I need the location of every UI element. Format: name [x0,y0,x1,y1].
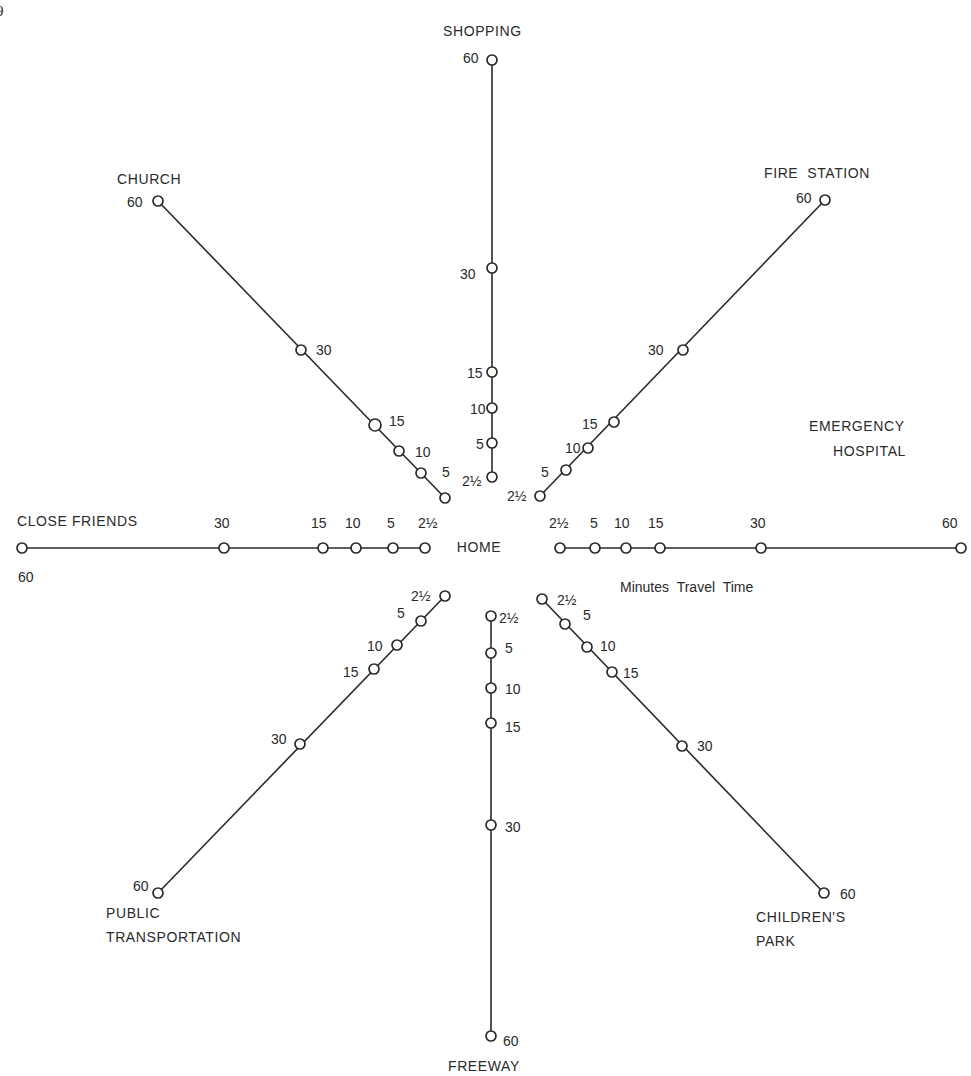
destination-label-emergency-hospital: EMERGENCY [809,418,905,434]
time-marker-label: 60 [18,569,34,585]
time-marker-node [394,446,404,456]
time-marker-label: 60 [840,886,856,902]
time-marker-label: 15 [582,416,598,432]
time-marker-node [369,664,379,674]
time-marker-node [487,263,497,273]
travel-time-diagram: 9 HOME Minutes Travel Time 2½510153060SH… [0,0,971,1076]
time-marker-label: 5 [442,464,450,480]
spoke-childrens-park: 2½510153060CHILDREN'SPARK [537,592,856,949]
time-marker-label: 2½ [507,488,527,504]
time-marker-node [819,888,829,898]
time-marker-label: 2½ [411,588,431,604]
time-marker-label: 2½ [549,515,569,531]
time-marker-node [820,195,830,205]
time-marker-label: 10 [600,638,616,654]
time-marker-label: 60 [942,515,958,531]
time-marker-node [153,196,163,206]
time-marker-label: 30 [505,819,521,835]
time-marker-node [440,591,450,601]
time-marker-label: 30 [460,266,476,282]
time-marker-label: 15 [389,413,405,429]
spoke-freeway: 2½510153060FREEWAY [448,610,521,1074]
destination-label-close-friends: CLOSE FRIENDS [17,513,138,529]
time-marker-node [351,543,361,553]
time-marker-label: 15 [467,365,483,381]
time-marker-node [956,543,966,553]
time-marker-node [486,611,496,621]
time-marker-node [486,1031,496,1041]
spoke-public-transportation: 2½510153060PUBLICTRANSPORTATION [106,588,450,945]
time-marker-label: 30 [697,738,713,754]
spoke-shopping: 2½510153060SHOPPING [443,23,522,489]
time-marker-label: 15 [343,664,359,680]
destination-label-childrens-park: CHILDREN'S [756,909,846,925]
time-marker-label: 10 [505,681,521,697]
diagram-svg: 9 HOME Minutes Travel Time 2½510153060SH… [0,0,971,1076]
destination-label-fire-station: FIRE STATION [764,165,870,181]
home-center-label: HOME [457,539,501,555]
time-marker-label: 15 [623,665,639,681]
time-marker-node [560,619,570,629]
time-marker-label: 5 [590,515,598,531]
time-marker-label: 15 [311,515,327,531]
time-marker-label: 30 [316,342,332,358]
time-marker-label: 15 [505,719,521,735]
time-marker-node [295,739,305,749]
time-marker-node [296,345,306,355]
spoke-church: 510153060CHURCH [117,171,450,503]
time-marker-label: 30 [271,731,287,747]
time-marker-label: 2½ [499,610,519,626]
destination-label-freeway: FREEWAY [448,1058,520,1074]
time-marker-node [756,543,766,553]
time-marker-label: 10 [565,440,581,456]
spoke-emergency-hospital: 2½510153060EMERGENCYHOSPITAL [549,418,966,553]
time-marker-label: 60 [133,878,149,894]
time-marker-label: 2½ [462,473,482,489]
time-marker-label: 5 [397,605,405,621]
time-marker-label: 10 [470,401,486,417]
time-marker-node [318,543,328,553]
time-marker-node [561,465,571,475]
time-marker-node [388,543,398,553]
time-marker-label: 60 [796,190,812,206]
time-marker-node [486,648,496,658]
time-marker-node [487,55,497,65]
time-marker-node [17,543,27,553]
time-marker-node [392,640,402,650]
time-marker-label: 2½ [557,592,577,608]
time-marker-label: 5 [476,436,484,452]
time-marker-label: 30 [648,342,664,358]
time-marker-node [487,367,497,377]
time-marker-label: 5 [541,464,549,480]
time-marker-node [487,472,497,482]
destination-label-public-transportation: TRANSPORTATION [106,929,241,945]
time-marker-node [607,667,617,677]
time-marker-node [535,491,545,501]
time-marker-node [655,543,665,553]
time-marker-node [486,820,496,830]
time-marker-node [590,543,600,553]
destination-label-church: CHURCH [117,171,181,187]
time-marker-node [486,718,496,728]
time-marker-node [583,443,593,453]
time-marker-label: 30 [214,515,230,531]
time-marker-node [621,543,631,553]
time-marker-node [537,594,547,604]
page-number-mark: 9 [0,3,4,19]
time-marker-node [677,741,687,751]
time-marker-node [219,543,229,553]
time-marker-node [487,438,497,448]
time-marker-label: 15 [648,515,664,531]
time-marker-node [153,888,163,898]
time-marker-label: 10 [367,638,383,654]
destination-label-public-transportation: PUBLIC [106,905,160,921]
time-marker-node [609,417,619,427]
time-marker-label: 2½ [418,515,438,531]
time-marker-label: 10 [415,444,431,460]
time-marker-label: 30 [750,515,766,531]
time-marker-node [487,403,497,413]
time-marker-label: 5 [387,515,395,531]
time-marker-node [416,616,426,626]
time-marker-label: 10 [614,515,630,531]
time-marker-label: 60 [503,1033,519,1049]
